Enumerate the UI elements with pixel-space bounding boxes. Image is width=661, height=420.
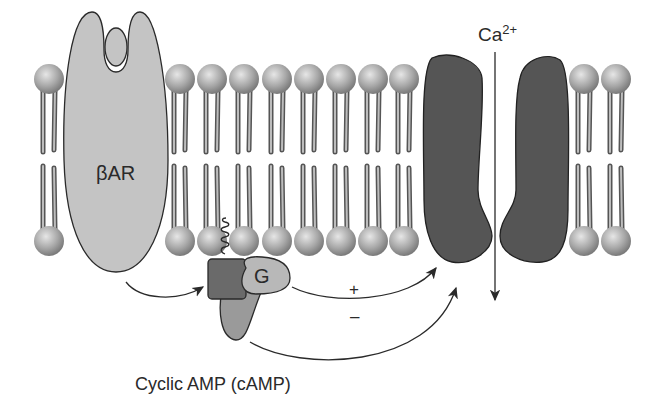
lipid <box>262 64 292 256</box>
diagram-canvas <box>0 0 661 420</box>
g-protein-label: G <box>254 265 270 288</box>
adenylyl-cyclase <box>208 259 246 299</box>
camp-label: Cyclic AMP (cAMP) <box>135 374 291 395</box>
receptor-label: βAR <box>96 162 135 185</box>
calcium-ion-label: Ca2+ <box>478 22 517 46</box>
calcium-channel-right <box>500 57 569 263</box>
inhibitory-sign: – <box>350 307 359 327</box>
lipid <box>601 64 631 256</box>
beta-adrenergic-receptor <box>64 12 168 272</box>
lipid <box>389 64 419 256</box>
lipid <box>165 64 195 256</box>
stimulatory-sign: + <box>349 280 359 300</box>
lipid <box>34 64 64 256</box>
lipid <box>569 64 599 256</box>
activation-arrow <box>126 282 203 297</box>
lipid <box>358 64 388 256</box>
ion-symbol: Ca <box>478 24 502 45</box>
ion-charge: 2+ <box>502 22 517 37</box>
lipid <box>294 64 324 256</box>
lipid <box>326 64 356 256</box>
lipid <box>229 64 259 256</box>
calcium-channel-left <box>423 55 492 262</box>
ligand <box>105 28 127 66</box>
stimulatory-arrow <box>292 268 436 298</box>
